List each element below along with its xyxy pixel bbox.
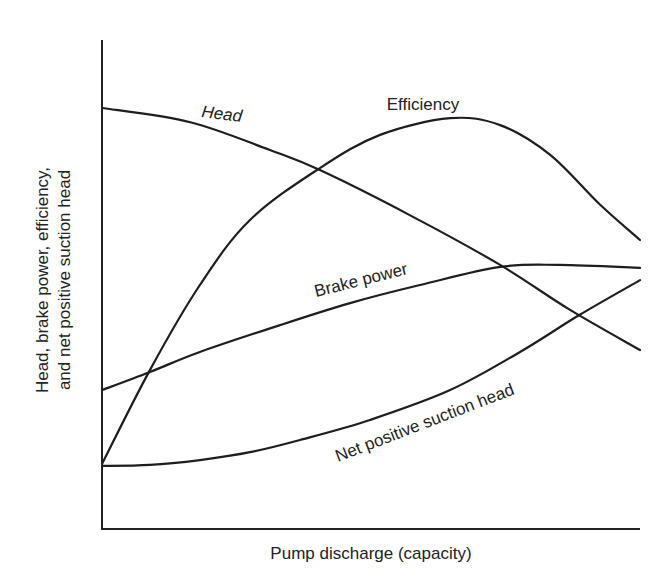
pump-characteristic-chart: Head Efficiency Brake power Net positive…: [0, 0, 672, 587]
curve-label-head: Head: [201, 102, 244, 126]
curve-label-brake-power: Brake power: [312, 259, 410, 301]
y-axis-title-line-2: and net positive suction head: [55, 170, 74, 390]
curve-label-efficiency: Efficiency: [387, 95, 460, 114]
x-axis-title: Pump discharge (capacity): [270, 544, 471, 563]
curve-efficiency: [102, 118, 640, 464]
y-axis-title-line-1: Head, brake power, efficiency,: [33, 167, 52, 393]
y-axis-title: Head, brake power, efficiency, and net p…: [33, 167, 74, 393]
